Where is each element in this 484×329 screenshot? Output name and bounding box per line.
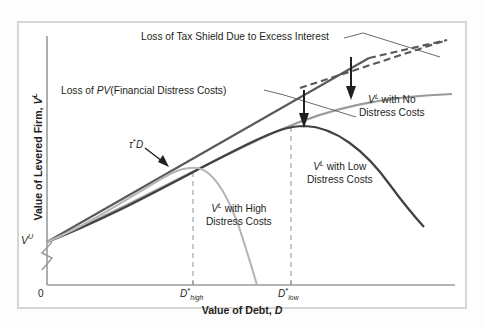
no-distress-line2: Distress Costs	[359, 107, 425, 118]
tau-d-variable: D	[136, 139, 143, 150]
annotation-high-distress-costs: VL with High Distress Costs	[206, 202, 272, 229]
arrow-loss-of-tax-shield	[346, 57, 356, 100]
arrow-tau-d	[145, 148, 169, 167]
y-axis-title-superscript: L	[30, 93, 39, 97]
d-high-subscript: high	[190, 294, 203, 301]
annotation-loss-of-pv: Loss of PV(Financial Distress Costs)	[61, 85, 226, 98]
annotation-loss-of-pv-suffix: (Financial Distress Costs)	[110, 85, 226, 96]
annotation-low-distress-costs: VL with Low Distress Costs	[307, 160, 373, 187]
annotation-loss-of-tax-shield: Loss of Tax Shield Due to Excess Interes…	[141, 31, 329, 44]
annotation-tau-star-d: τ*D	[129, 137, 143, 152]
x-tick-label-zero: 0	[38, 288, 44, 299]
y-axis-title-symbol: V	[32, 97, 44, 104]
no-distress-v-symbol: V	[368, 94, 375, 105]
high-distress-v-symbol: V	[211, 203, 218, 214]
x-tick-label-d-star-low: D*low	[278, 286, 299, 301]
leader-line-loss-pv	[264, 90, 356, 117]
annotation-loss-of-pv-prefix: Loss of	[61, 85, 97, 96]
high-distress-line2: Distress Costs	[206, 216, 272, 227]
d-low-subscript: low	[288, 294, 298, 301]
annotation-no-distress-costs: VL with No Distress Costs	[359, 93, 425, 120]
x-tick-label-d-star-high: D*high	[180, 286, 203, 301]
figure-container: Loss of Tax Shield Due to Excess Interes…	[0, 0, 484, 329]
series-dashed-upper-segment	[300, 40, 447, 88]
annotation-loss-of-pv-italic: PV	[97, 85, 111, 96]
high-distress-line1-rest: with High	[222, 203, 267, 214]
y-axis-title-prefix: Value of Levered Firm,	[32, 105, 44, 221]
y-axis-title: Value of Levered Firm, VL	[30, 57, 44, 257]
x-axis-title-prefix: Value of Debt,	[202, 304, 275, 316]
low-distress-line1-rest: with Low	[324, 161, 366, 172]
x-axis-title: Value of Debt, D	[0, 304, 484, 316]
vu-symbol: V	[21, 234, 28, 246]
no-distress-line1-rest: with No	[379, 94, 416, 105]
x-axis-title-symbol: D	[275, 304, 283, 316]
chart-plot-svg	[0, 0, 484, 329]
low-distress-line2: Distress Costs	[307, 174, 373, 185]
